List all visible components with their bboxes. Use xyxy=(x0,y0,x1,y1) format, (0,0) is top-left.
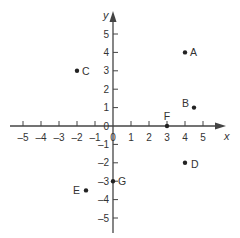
y-tick-label: 5 xyxy=(103,29,109,40)
axes: xy xyxy=(10,9,230,233)
x-tick-label: 2 xyxy=(146,132,152,143)
point-label-b: B xyxy=(182,97,189,109)
y-tick-label: –2 xyxy=(98,157,110,168)
point-d xyxy=(183,161,187,165)
x-tick-label: –2 xyxy=(71,132,83,143)
point-g xyxy=(111,179,115,183)
x-tick-label: –3 xyxy=(53,132,65,143)
point-b xyxy=(192,105,196,109)
points: ABCDEFG xyxy=(73,46,199,196)
x-tick-label: 5 xyxy=(200,132,206,143)
x-tick-label: –5 xyxy=(17,132,29,143)
y-axis-label: y xyxy=(102,9,110,21)
coordinate-plane: xy –5–4–3–2–1012345–5–4–3–2–1123450 ABCD… xyxy=(0,0,240,238)
y-tick-label: 1 xyxy=(103,102,109,113)
point-f xyxy=(165,124,169,128)
point-label-g: G xyxy=(118,175,126,187)
x-axis-arrow-icon xyxy=(215,123,226,130)
y-tick-label: 3 xyxy=(103,65,109,76)
origin-label: 0 xyxy=(103,121,109,132)
x-tick-label: 3 xyxy=(164,132,170,143)
point-a xyxy=(183,50,187,54)
y-tick-label: 4 xyxy=(103,47,109,58)
x-tick-label: 0 xyxy=(110,132,116,143)
y-tick-label: –3 xyxy=(98,176,110,187)
point-c xyxy=(75,69,79,73)
y-tick-label: –4 xyxy=(98,194,110,205)
y-tick-label: 2 xyxy=(103,84,109,95)
x-axis-label: x xyxy=(223,130,230,142)
point-e xyxy=(84,188,88,192)
x-tick-label: 4 xyxy=(182,132,188,143)
x-tick-label: 1 xyxy=(128,132,134,143)
point-label-a: A xyxy=(190,46,197,58)
point-label-d: D xyxy=(191,158,199,170)
point-label-e: E xyxy=(73,184,80,196)
x-tick-label: –4 xyxy=(35,132,47,143)
y-tick-label: –1 xyxy=(98,139,110,150)
point-label-f: F xyxy=(164,110,170,122)
y-axis-arrow-icon xyxy=(110,11,117,22)
y-tick-label: –5 xyxy=(98,213,110,224)
point-label-c: C xyxy=(82,65,90,77)
